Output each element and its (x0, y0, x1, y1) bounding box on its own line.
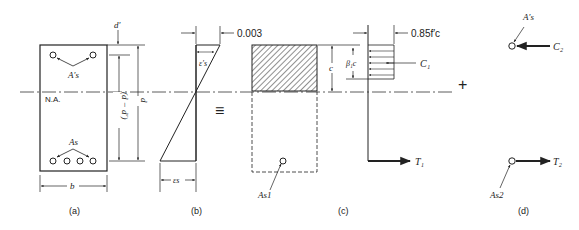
doubly-reinforced-beam-diagram: A′s N.A. As d′ (d − d′) d b (a) (0, 0, 579, 230)
caption-c: (c) (338, 206, 349, 216)
plus-sign: + (458, 76, 467, 93)
t2-label: T₂ (553, 156, 563, 167)
as-prime-d-label: A′s (522, 12, 534, 22)
top-bar (50, 52, 56, 58)
caption-d: (d) (518, 206, 529, 216)
c2-label: C₂ (553, 41, 564, 52)
stress-label: 0.85f′c (411, 28, 440, 39)
caption-a: (a) (69, 206, 80, 216)
as-prime-label: A′s (67, 70, 79, 80)
neutral-axis-label: N.A. (45, 95, 61, 104)
caption-b: (b) (191, 206, 202, 216)
beta1c-label: β₁c (345, 59, 357, 68)
eps-s-prime-label: ε′s (199, 59, 207, 68)
t1-label: T₁ (415, 156, 424, 167)
compression-bar (509, 43, 515, 49)
bottom-bar (50, 158, 56, 164)
top-bar (90, 52, 96, 58)
bottom-bar (64, 158, 70, 164)
panel-c-concrete-block: As1 c β₁c 0.85f′c C₁ T₁ (c) (252, 25, 440, 216)
panel-d-steel-couple: A′s C₂ T₂ As2 (d) (489, 12, 564, 216)
bottom-bar (90, 158, 96, 164)
bottom-bar (77, 158, 83, 164)
tension-bar-as1 (280, 158, 286, 164)
tension-bar-as2 (509, 158, 515, 164)
eps-s-label: εs (173, 176, 179, 185)
as-label: As (68, 137, 78, 147)
as1-label: As1 (257, 190, 272, 200)
panel-a-cross-section: A′s N.A. As d′ (d − d′) d b (a) (40, 20, 149, 216)
as2-label: As2 (489, 190, 504, 200)
panel-b-strain-diagram: 0.003 ε′s εs (b) (160, 26, 262, 216)
d-prime-label: d′ (114, 20, 122, 30)
tension-zone-dashed (252, 92, 317, 172)
equivalence-sign: ≡ (215, 102, 224, 119)
compression-zone-hatched (252, 45, 317, 91)
d-label: d (139, 98, 149, 103)
c1-label: C₁ (420, 58, 430, 69)
b-label: b (70, 181, 75, 191)
c-label: c (329, 63, 333, 73)
beam-section (40, 45, 107, 171)
d-minus-d-prime-label: (d − d′) (120, 92, 130, 120)
strain-profile (160, 45, 220, 161)
strain-0003-label: 0.003 (237, 28, 262, 39)
